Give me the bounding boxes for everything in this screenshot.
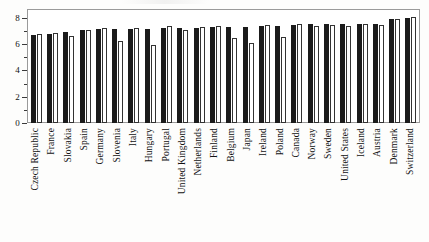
x-tick-label: Spain <box>80 128 90 150</box>
bar-group <box>321 10 337 123</box>
x-tick-label: France <box>48 128 58 155</box>
y-minor-tick-1 <box>24 110 27 111</box>
bar-series-2 <box>151 45 156 123</box>
x-label-cell: Ireland <box>256 126 272 242</box>
bar-series-1 <box>210 27 215 123</box>
x-label-cell: Iceland <box>354 126 370 242</box>
bar-series-2 <box>69 36 74 123</box>
bar-series-1 <box>324 24 329 123</box>
bar-series-1 <box>128 29 133 123</box>
y-tick-label-4: 4 <box>15 66 20 75</box>
x-tick-label: Austria <box>374 128 384 157</box>
bar-series-2 <box>118 41 123 123</box>
bar-group <box>387 10 403 123</box>
y-tick-8 <box>22 18 27 19</box>
bar-series-1 <box>405 18 410 123</box>
y-tick-6 <box>22 44 27 45</box>
y-tick-4 <box>22 70 27 71</box>
bar-series-2 <box>411 17 416 123</box>
bar-group <box>191 10 207 123</box>
bar-group <box>240 10 256 123</box>
bar-series-2 <box>102 28 107 123</box>
y-axis: 02468 <box>0 9 27 124</box>
x-tick-label: Italy <box>129 128 139 146</box>
bar-series-1 <box>340 24 345 123</box>
bar-group <box>93 10 109 123</box>
y-minor-tick-3 <box>24 84 27 85</box>
x-tick-label: United States <box>341 128 351 181</box>
bar-group <box>175 10 191 123</box>
bar-series-1 <box>243 27 248 123</box>
y-tick-0 <box>22 123 27 124</box>
x-tick-label: Slovenia <box>113 128 123 162</box>
bar-series-1 <box>80 30 85 123</box>
bar-group <box>338 10 354 123</box>
x-label-cell: Norway <box>305 126 321 242</box>
y-tick-label-2: 2 <box>15 92 20 101</box>
x-label-cell: Italy <box>126 126 142 242</box>
bar-series-2 <box>216 26 221 123</box>
x-tick-label: Iceland <box>357 128 367 157</box>
x-tick-label: Belgium <box>227 128 237 162</box>
x-label-cell: Slovakia <box>61 126 77 242</box>
bar-series-1 <box>47 34 52 123</box>
bar-series-1 <box>96 29 101 123</box>
x-tick-label: Slovakia <box>64 128 74 162</box>
x-label-cell: Hungary <box>142 126 158 242</box>
x-label-cell: Canada <box>289 126 305 242</box>
bar-series-2 <box>265 25 270 123</box>
x-label-cell: Germany <box>93 126 109 242</box>
bar-group <box>354 10 370 123</box>
bar-group <box>77 10 93 123</box>
y-tick-label-0: 0 <box>15 119 20 128</box>
bar-group <box>109 10 125 123</box>
bar-group <box>305 10 321 123</box>
bar-group <box>207 10 223 123</box>
bar-series-2 <box>167 26 172 123</box>
bar-series-2 <box>363 24 368 123</box>
bar-group <box>370 10 386 123</box>
bar-group <box>142 10 158 123</box>
bar-group <box>272 10 288 123</box>
y-tick-2 <box>22 97 27 98</box>
bar-group <box>403 10 419 123</box>
x-tick-label: Sweden <box>325 128 335 159</box>
x-label-cell: Austria <box>370 126 386 242</box>
bar-series-2 <box>379 25 384 123</box>
x-label-cell: Denmark <box>387 126 403 242</box>
x-label-cell: Spain <box>77 126 93 242</box>
bar-chart-figure: 02468 Czech RepublicFranceSlovakiaSpainG… <box>0 0 429 242</box>
x-tick-label: Finland <box>211 128 221 158</box>
x-tick-label: Czech Republic <box>31 128 41 191</box>
bar-series-1 <box>161 28 166 123</box>
x-label-cell: France <box>44 126 60 242</box>
bar-series-2 <box>330 25 335 123</box>
x-tick-label: Netherlands <box>194 128 204 176</box>
bar-series-1 <box>259 26 264 123</box>
x-label-cell: Slovenia <box>109 126 125 242</box>
top-edge-artifact <box>120 0 210 4</box>
x-tick-label: United Kingdom <box>178 128 188 194</box>
x-tick-label: Denmark <box>390 128 400 164</box>
x-tick-label: Portugal <box>162 128 172 161</box>
bar-group <box>126 10 142 123</box>
bar-group <box>28 10 44 123</box>
bar-group <box>61 10 77 123</box>
y-minor-tick-5 <box>24 57 27 58</box>
x-label-cell: United Kingdom <box>175 126 191 242</box>
bar-series-1 <box>291 25 296 123</box>
bar-series-2 <box>314 26 319 123</box>
x-label-cell: Portugal <box>158 126 174 242</box>
y-tick-label-6: 6 <box>15 40 20 49</box>
bar-group <box>224 10 240 123</box>
x-label-cell: United States <box>338 126 354 242</box>
bar-series-2 <box>249 43 254 123</box>
bar-series-2 <box>232 38 237 123</box>
bar-series-2 <box>281 37 286 123</box>
x-axis-labels: Czech RepublicFranceSlovakiaSpainGermany… <box>28 126 419 242</box>
bar-series-1 <box>275 26 280 123</box>
x-tick-label: Germany <box>97 128 107 164</box>
x-label-cell: Netherlands <box>191 126 207 242</box>
bar-group <box>289 10 305 123</box>
x-tick-label: Hungary <box>145 128 155 162</box>
